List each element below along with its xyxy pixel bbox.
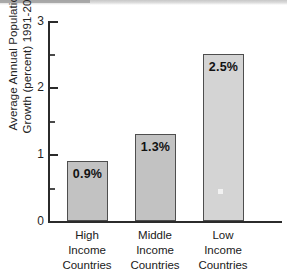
y-tick-minor-1point5 bbox=[50, 121, 55, 123]
y-tick-major-2 bbox=[50, 87, 58, 89]
y-tick-major-3 bbox=[50, 21, 58, 23]
x-category-line-2-0: Low bbox=[175, 228, 271, 243]
y-tick-label-3: 3 bbox=[22, 15, 44, 27]
bar-low-income-countries: 2.5% bbox=[203, 54, 244, 221]
x-category-line-2-1: Income bbox=[175, 243, 271, 258]
y-tick-major-1 bbox=[50, 154, 58, 156]
y-tick-minor-0point5 bbox=[50, 188, 55, 190]
y-axis-label-line-1: Average Annual Population bbox=[6, 0, 20, 131]
y-tick-label-1: 1 bbox=[22, 148, 44, 160]
y-tick-label-2: 2 bbox=[22, 81, 44, 93]
y-tick-label-0: 0 bbox=[22, 215, 44, 227]
x-axis-line bbox=[48, 221, 282, 223]
y-tick-minor-2point5 bbox=[50, 54, 55, 56]
bar-chart: Average Annual Population Growth (percen… bbox=[0, 0, 287, 274]
x-category-line-2-2: Countries bbox=[175, 258, 271, 273]
bar-value-label-2: 2.5% bbox=[209, 60, 238, 74]
bar-high-income-countries: 0.9% bbox=[67, 161, 108, 221]
bar-middle-income-countries: 1.3% bbox=[135, 134, 176, 221]
bar-value-label-0: 0.9% bbox=[73, 167, 102, 181]
y-tick-major-0 bbox=[50, 221, 58, 223]
scan-artifact-speck bbox=[218, 189, 223, 194]
x-category-label-low-income: Low Income Countries bbox=[175, 228, 271, 273]
bar-value-label-1: 1.3% bbox=[141, 140, 170, 154]
